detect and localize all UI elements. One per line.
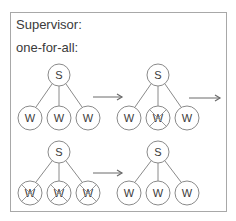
worker-node: W [175,181,199,205]
worker-node-terminated: W [47,181,71,205]
worker-node: W [117,106,141,130]
svg-text:W: W [124,187,135,199]
worker-node: W [47,106,71,130]
worker-node: W [117,181,141,205]
supervisor-node: S [48,141,70,163]
svg-text:S: S [55,69,62,81]
svg-text:W: W [182,187,193,199]
worker-node: W [146,181,170,205]
worker-node: W [18,106,42,130]
tree-edge [36,161,52,182]
worker-node-crashed: W [146,106,170,130]
worker-node-terminated: W [18,181,42,205]
svg-text:W: W [124,112,135,124]
tree-edge [135,161,151,182]
tree-edge [66,84,82,107]
stage-all-workers-terminated: S W W W [18,141,100,205]
svg-text:S: S [154,69,161,81]
svg-text:S: S [55,146,62,158]
stage-initial: S W W W [18,64,100,130]
supervision-tree-diagram: S W W W S W W [0,0,236,221]
tree-edge [66,161,82,182]
supervisor-node: S [48,64,70,86]
tree-edge [36,84,52,107]
svg-text:W: W [153,187,164,199]
svg-text:S: S [154,146,161,158]
svg-text:W: W [54,112,65,124]
worker-node: W [175,106,199,130]
tree-edge [135,84,151,107]
svg-text:W: W [182,112,193,124]
tree-edge [165,84,181,107]
svg-text:W: W [83,112,94,124]
stage-all-workers-restarted: S W W W [117,141,199,205]
worker-node: W [76,106,100,130]
tree-edge [165,161,181,182]
supervisor-node: S [147,64,169,86]
worker-node-terminated: W [76,181,100,205]
stage-one-worker-fails: S W W W [117,64,199,130]
svg-text:W: W [25,112,36,124]
supervisor-node: S [147,141,169,163]
